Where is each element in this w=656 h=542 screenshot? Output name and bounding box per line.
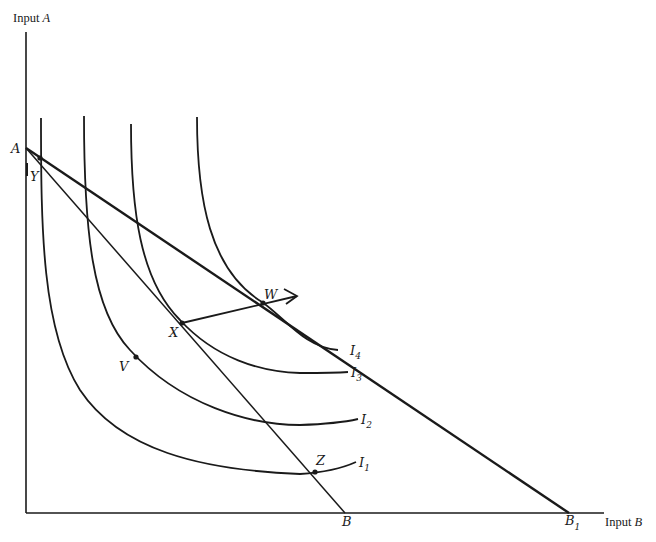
label-a: A <box>10 141 20 156</box>
point-v <box>133 354 138 359</box>
label-v: V <box>119 359 130 374</box>
curve-i3 <box>131 124 348 373</box>
label-z: Z <box>315 453 326 468</box>
point-z <box>312 469 317 474</box>
label-i1: I1 <box>358 455 370 473</box>
label-w: W <box>264 287 279 302</box>
curve-i2 <box>84 116 358 425</box>
point-x <box>179 320 184 325</box>
label-i4: I4 <box>349 343 361 361</box>
point-y <box>37 155 42 160</box>
x-axis-label: Input B <box>605 515 643 529</box>
expansion-arrow-head <box>284 289 297 304</box>
label-b1: B1 <box>564 513 580 532</box>
label-i2: I2 <box>360 412 372 430</box>
label-i3: I3 <box>350 365 362 383</box>
label-y: Y <box>30 169 40 184</box>
label-b: B <box>341 514 352 529</box>
label-x: X <box>168 325 179 340</box>
y-axis-label: Input A <box>13 11 51 25</box>
isoquant-diagram: Input A Input B A Y V X W Z B B1 I1 I2 I… <box>0 0 656 542</box>
